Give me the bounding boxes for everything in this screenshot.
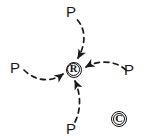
corner-mark-label: C [111,111,127,127]
label-p-top: P [66,4,76,19]
diagram-canvas: R C P P P P [0,0,142,139]
arrow-left-to-center [24,70,63,80]
label-p-right: P [124,62,134,77]
circled-c-copyright-symbol: C [111,111,129,129]
center-node-label: R [66,62,82,78]
label-p-left: P [10,60,20,75]
circled-r-registered-symbol: R [66,62,84,80]
label-p-bottom: P [66,121,76,136]
arrow-bottom-to-center [75,81,80,122]
arrow-top-to-center [78,20,84,58]
arrow-right-to-center [86,62,126,70]
